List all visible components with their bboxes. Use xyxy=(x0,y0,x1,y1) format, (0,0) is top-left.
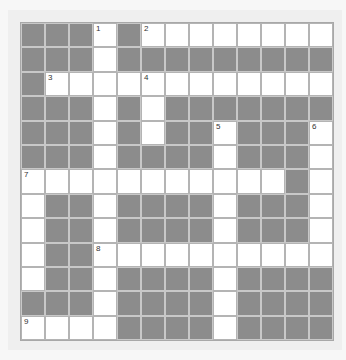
crossword-cell[interactable] xyxy=(213,267,237,291)
crossword-cell[interactable] xyxy=(93,72,117,96)
blocked-cell xyxy=(45,291,69,315)
crossword-cell[interactable] xyxy=(189,169,213,193)
blocked-cell xyxy=(117,267,141,291)
crossword-cell[interactable] xyxy=(93,145,117,169)
blocked-cell xyxy=(165,121,189,145)
crossword-cell[interactable] xyxy=(309,169,333,193)
crossword-cell[interactable] xyxy=(213,291,237,315)
crossword-cell[interactable]: 8 xyxy=(93,243,117,267)
blocked-cell xyxy=(285,218,309,242)
crossword-cell[interactable] xyxy=(141,169,165,193)
crossword-cell[interactable]: 9 xyxy=(21,316,45,340)
crossword-cell[interactable] xyxy=(93,121,117,145)
blocked-cell xyxy=(117,47,141,71)
blocked-cell xyxy=(69,291,93,315)
blocked-cell xyxy=(21,121,45,145)
crossword-cell[interactable] xyxy=(213,194,237,218)
crossword-cell[interactable] xyxy=(237,72,261,96)
crossword-cell[interactable] xyxy=(213,23,237,47)
blocked-cell xyxy=(261,121,285,145)
crossword-cell[interactable] xyxy=(261,72,285,96)
crossword-cell[interactable] xyxy=(309,23,333,47)
crossword-cell[interactable]: 2 xyxy=(141,23,165,47)
crossword-cell[interactable] xyxy=(93,291,117,315)
crossword-cell[interactable] xyxy=(93,194,117,218)
blocked-cell xyxy=(237,291,261,315)
crossword-cell[interactable] xyxy=(213,218,237,242)
crossword-cell[interactable] xyxy=(237,243,261,267)
crossword-cell[interactable]: 6 xyxy=(309,121,333,145)
crossword-cell[interactable] xyxy=(69,72,93,96)
crossword-cell[interactable] xyxy=(189,243,213,267)
crossword-cell[interactable] xyxy=(93,316,117,340)
crossword-cell[interactable] xyxy=(141,243,165,267)
blocked-cell xyxy=(237,47,261,71)
crossword-cell[interactable] xyxy=(21,194,45,218)
crossword-cell[interactable] xyxy=(21,243,45,267)
crossword-cell[interactable] xyxy=(69,316,93,340)
crossword-cell[interactable]: 1 xyxy=(93,23,117,47)
crossword-cell[interactable] xyxy=(93,218,117,242)
blocked-cell xyxy=(309,316,333,340)
crossword-cell[interactable] xyxy=(309,194,333,218)
crossword-cell[interactable] xyxy=(93,169,117,193)
crossword-cell[interactable] xyxy=(285,23,309,47)
blocked-cell xyxy=(141,218,165,242)
crossword-cell[interactable]: 4 xyxy=(141,72,165,96)
crossword-cell[interactable] xyxy=(285,72,309,96)
crossword-cell[interactable] xyxy=(21,218,45,242)
crossword-cell[interactable] xyxy=(285,243,309,267)
crossword-cell[interactable] xyxy=(213,145,237,169)
blocked-cell xyxy=(261,194,285,218)
crossword-cell[interactable] xyxy=(213,316,237,340)
crossword-cell[interactable] xyxy=(189,72,213,96)
crossword-cell[interactable] xyxy=(165,72,189,96)
crossword-cell[interactable] xyxy=(117,169,141,193)
crossword-cell[interactable] xyxy=(237,23,261,47)
blocked-cell xyxy=(45,218,69,242)
crossword-cell[interactable] xyxy=(93,47,117,71)
crossword-cell[interactable] xyxy=(141,121,165,145)
crossword-cell[interactable] xyxy=(261,169,285,193)
crossword-cell[interactable] xyxy=(213,72,237,96)
crossword-cell[interactable] xyxy=(117,72,141,96)
crossword-cell[interactable] xyxy=(309,72,333,96)
blocked-cell xyxy=(165,218,189,242)
crossword-cell[interactable]: 5 xyxy=(213,121,237,145)
blocked-cell xyxy=(165,194,189,218)
blocked-cell xyxy=(189,316,213,340)
crossword-cell[interactable] xyxy=(213,243,237,267)
blocked-cell xyxy=(45,194,69,218)
blocked-cell xyxy=(21,47,45,71)
crossword-cell[interactable] xyxy=(21,267,45,291)
crossword-cell[interactable] xyxy=(261,23,285,47)
crossword-cell[interactable] xyxy=(309,243,333,267)
crossword-cell[interactable] xyxy=(45,316,69,340)
crossword-cell[interactable]: 7 xyxy=(21,169,45,193)
crossword-cell[interactable] xyxy=(165,23,189,47)
blocked-cell xyxy=(237,267,261,291)
crossword-cell[interactable]: 3 xyxy=(45,72,69,96)
crossword-cell[interactable] xyxy=(141,96,165,120)
crossword-cell[interactable] xyxy=(117,243,141,267)
crossword-cell[interactable] xyxy=(45,169,69,193)
blocked-cell xyxy=(285,121,309,145)
crossword-cell[interactable] xyxy=(189,23,213,47)
crossword-cell[interactable] xyxy=(93,267,117,291)
crossword-cell[interactable] xyxy=(69,169,93,193)
blocked-cell xyxy=(141,316,165,340)
blocked-cell xyxy=(189,145,213,169)
blocked-cell xyxy=(45,145,69,169)
blocked-cell xyxy=(69,194,93,218)
crossword-cell[interactable] xyxy=(309,145,333,169)
crossword-cell[interactable] xyxy=(93,96,117,120)
crossword-cell[interactable] xyxy=(309,218,333,242)
crossword-cell[interactable] xyxy=(213,169,237,193)
blocked-cell xyxy=(237,218,261,242)
crossword-cell[interactable] xyxy=(165,169,189,193)
crossword-cell[interactable] xyxy=(165,243,189,267)
crossword-cell[interactable] xyxy=(261,243,285,267)
blocked-cell xyxy=(141,194,165,218)
crossword-cell[interactable] xyxy=(237,169,261,193)
clue-number: 9 xyxy=(24,317,28,327)
